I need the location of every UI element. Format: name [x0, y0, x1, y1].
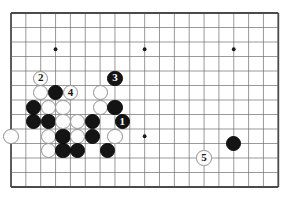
- white-stone-move-5[interactable]: 5: [196, 150, 211, 165]
- black-stone[interactable]: [26, 100, 41, 115]
- black-stone[interactable]: [41, 114, 56, 129]
- white-stone[interactable]: [3, 129, 18, 144]
- stone-move-number: 4: [68, 87, 74, 98]
- white-stone[interactable]: [55, 100, 70, 115]
- white-stone-move-2[interactable]: 2: [33, 71, 48, 86]
- white-stone[interactable]: [41, 143, 56, 158]
- star-point: [143, 47, 147, 51]
- stone-move-number: 1: [120, 116, 126, 127]
- black-stone[interactable]: [107, 100, 122, 115]
- stone-move-number: 2: [38, 72, 44, 83]
- white-stone[interactable]: [41, 100, 56, 115]
- star-point: [232, 47, 236, 51]
- star-point: [54, 47, 58, 51]
- black-stone[interactable]: [85, 129, 100, 144]
- star-point: [143, 134, 147, 138]
- white-stone[interactable]: [107, 129, 122, 144]
- stone-move-number: 5: [201, 152, 207, 163]
- white-stone[interactable]: [41, 129, 56, 144]
- white-stone[interactable]: [55, 114, 70, 129]
- go-board-diagram: 24315: [0, 0, 287, 203]
- stone-move-number: 3: [112, 72, 118, 83]
- white-stone[interactable]: [93, 85, 108, 100]
- black-stone[interactable]: [55, 143, 70, 158]
- black-stone-move-3[interactable]: 3: [107, 71, 122, 86]
- white-stone[interactable]: [93, 100, 108, 115]
- black-stone[interactable]: [55, 129, 70, 144]
